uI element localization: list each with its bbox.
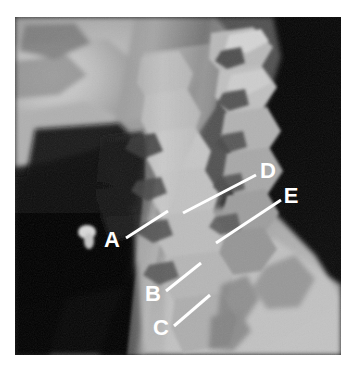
radiograph-image — [15, 17, 341, 355]
xray-rendering — [15, 17, 341, 355]
radiograph-figure: A B C D E — [0, 0, 355, 368]
